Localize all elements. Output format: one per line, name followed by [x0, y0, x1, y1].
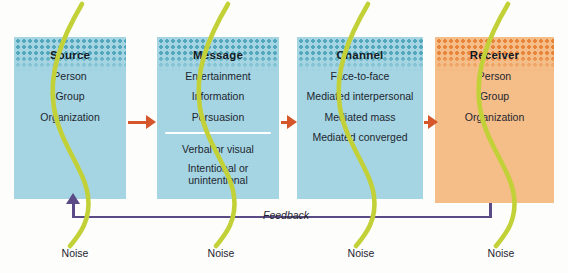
stage-item-message-3: Verbal or visual — [157, 143, 279, 155]
arrow-source-to-message — [128, 115, 156, 129]
stage-item-message-4: Intentional or unintentional — [157, 162, 279, 186]
communication-model-diagram: Source Person Group Organization Message… — [0, 0, 568, 273]
stage-item-channel-0: Face-to-face — [297, 70, 423, 82]
stage-title-channel: Channel — [297, 49, 423, 61]
arrow-head-icon — [287, 115, 297, 129]
stage-item-channel-3: Mediated converged — [297, 131, 423, 143]
stage-content-receiver: Receiver Person Group Organization — [435, 37, 554, 123]
stage-content-channel: Channel Face-to-face Mediated interperso… — [297, 37, 423, 143]
stage-item-source-1: Group — [14, 90, 126, 102]
message-divider — [165, 132, 271, 135]
stage-item-channel-2: Mediated mass — [297, 111, 423, 123]
stage-content-message: Message Entertainment Information Persua… — [157, 37, 279, 186]
noise-label-1: Noise — [62, 247, 89, 259]
arrow-message-to-channel — [281, 115, 297, 129]
arrow-head-icon — [428, 115, 438, 129]
feedback-arrow-head-icon — [66, 193, 80, 204]
stage-item-receiver-1: Group — [435, 90, 554, 102]
stage-item-message-1: Information — [157, 90, 279, 102]
stage-title-source: Source — [14, 49, 126, 61]
noise-label-2: Noise — [208, 247, 235, 259]
arrow-head-icon — [146, 115, 156, 129]
stage-item-message-0: Entertainment — [157, 70, 279, 82]
arrow-channel-to-receiver — [424, 115, 437, 129]
stage-box-channel: Channel Face-to-face Mediated interperso… — [297, 37, 423, 199]
stage-item-receiver-0: Person — [435, 70, 554, 82]
stage-item-source-0: Person — [14, 70, 126, 82]
stage-item-source-2: Organization — [14, 111, 126, 123]
arrow-shaft — [128, 121, 147, 124]
stage-item-channel-1: Mediated interpersonal — [297, 90, 423, 102]
stage-item-message-2: Persuasion — [157, 111, 279, 123]
noise-label-3: Noise — [348, 247, 375, 259]
stage-item-receiver-2: Organization — [435, 111, 554, 123]
stage-box-message: Message Entertainment Information Persua… — [157, 37, 279, 199]
stage-title-receiver: Receiver — [435, 49, 554, 61]
stage-content-source: Source Person Group Organization — [14, 37, 126, 123]
stage-box-source: Source Person Group Organization — [14, 37, 126, 199]
noise-label-4: Noise — [488, 247, 515, 259]
feedback-label: Feedback — [263, 209, 309, 221]
feedback-segment-up — [72, 204, 75, 217]
stage-box-receiver: Receiver Person Group Organization — [435, 37, 554, 203]
stage-title-message: Message — [157, 49, 279, 61]
